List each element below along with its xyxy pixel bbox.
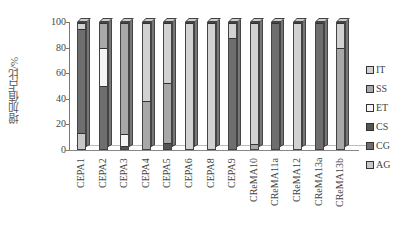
bar-crema12 xyxy=(293,22,302,150)
bar-side xyxy=(324,19,328,147)
bar-segment-ss xyxy=(337,48,344,149)
bar-segment-it xyxy=(143,23,150,101)
bar-cepa2 xyxy=(99,22,108,150)
bar-segment-cg xyxy=(272,23,279,149)
legend-label: SS xyxy=(376,83,387,94)
x-tick-label: CEPA4 xyxy=(140,158,154,218)
x-tick-label: CReMA13b xyxy=(334,158,348,218)
legend-swatch xyxy=(366,66,374,74)
bar-segment-it xyxy=(208,23,215,149)
bar-side xyxy=(129,19,133,147)
x-tick-label: CEPA5 xyxy=(161,158,175,218)
bar-side xyxy=(86,19,90,147)
bar-side xyxy=(259,19,263,147)
bar-segment-it xyxy=(251,23,258,144)
y-tick-mark xyxy=(66,48,70,49)
bar-cepa5 xyxy=(163,22,172,150)
legend: ITSSETCSCGAG xyxy=(366,60,390,174)
bar-side xyxy=(172,19,176,147)
bar-segment-ss xyxy=(100,23,107,48)
bar-cepa4 xyxy=(142,22,151,150)
legend-label: CS xyxy=(376,121,388,132)
bar-cepa1 xyxy=(77,22,86,150)
bar-cepa8 xyxy=(207,22,216,150)
legend-item-cg: CG xyxy=(366,136,390,155)
bar-crema11a xyxy=(271,22,280,150)
legend-item-ag: AG xyxy=(366,155,390,174)
legend-label: ET xyxy=(376,102,388,113)
bar-segment-et xyxy=(100,48,107,86)
legend-swatch xyxy=(366,104,374,112)
bar-cepa9 xyxy=(228,22,237,150)
bar-side xyxy=(216,19,220,147)
legend-swatch xyxy=(366,142,374,150)
y-tick-label: 0 xyxy=(40,145,66,155)
chart-floor xyxy=(69,150,359,151)
x-tick-label: CEPA2 xyxy=(97,158,111,218)
bar-side xyxy=(194,19,198,147)
legend-swatch xyxy=(366,161,374,169)
bar-segment-it xyxy=(186,23,193,149)
y-tick-mark xyxy=(66,73,70,74)
y-axis-label: 增加值占比/% xyxy=(6,40,26,140)
legend-swatch xyxy=(366,123,374,131)
legend-label: AG xyxy=(376,159,390,170)
y-tick-label: 60 xyxy=(40,68,66,78)
bar-segment-cg xyxy=(229,38,236,149)
legend-item-et: ET xyxy=(366,98,390,117)
bar-segment-it xyxy=(229,23,236,38)
bar-side xyxy=(108,19,112,147)
bar-segment-ss xyxy=(164,83,171,142)
y-tick-mark xyxy=(66,124,70,125)
x-tick-label: CEPA9 xyxy=(226,158,240,218)
bar-segment-ss xyxy=(143,101,150,149)
y-tick-label: 40 xyxy=(40,94,66,104)
x-tick-label: CEPA3 xyxy=(118,158,132,218)
x-tick-label: CReMA10 xyxy=(248,158,262,218)
bar-crema10 xyxy=(250,22,259,150)
bar-segment-cs xyxy=(164,143,171,149)
bar-segment-et xyxy=(121,134,128,147)
bar-segment-it xyxy=(164,23,171,83)
bar-side xyxy=(345,19,349,147)
bar-cepa3 xyxy=(120,22,129,150)
x-tick-label: CEPA1 xyxy=(75,158,89,218)
bar-cepa6 xyxy=(185,22,194,150)
legend-item-ss: SS xyxy=(366,79,390,98)
legend-swatch xyxy=(366,85,374,93)
bar-side xyxy=(302,19,306,147)
y-tick-mark xyxy=(66,99,70,100)
y-axis xyxy=(69,22,70,151)
bar-side xyxy=(237,19,241,147)
bar-segment-ss xyxy=(121,23,128,134)
x-tick-label: CReMA12 xyxy=(291,158,305,218)
legend-item-it: IT xyxy=(366,60,390,79)
bar-segment-it xyxy=(337,23,344,48)
x-tick-label: CReMA11a xyxy=(269,158,283,218)
bar-side xyxy=(151,19,155,147)
bar-segment-cg xyxy=(78,29,85,132)
bar-crema13a xyxy=(315,22,324,150)
bar-side xyxy=(280,19,284,147)
y-tick-label: 20 xyxy=(40,119,66,129)
bar-segment-cg xyxy=(100,86,107,149)
x-tick-label: CEPA6 xyxy=(183,158,197,218)
legend-label: CG xyxy=(376,140,390,151)
x-tick-label: CReMA13a xyxy=(313,158,327,218)
bar-segment-cs xyxy=(121,146,128,149)
y-tick-label: 80 xyxy=(40,43,66,53)
legend-label: IT xyxy=(376,64,385,75)
x-tick-label: CEPA8 xyxy=(205,158,219,218)
y-tick-label: 100 xyxy=(40,17,66,27)
bar-segment-ag xyxy=(78,133,85,149)
y-tick-mark xyxy=(66,22,70,23)
legend-item-cs: CS xyxy=(366,117,390,136)
bar-segment-ss xyxy=(251,144,258,149)
bar-crema13b xyxy=(336,22,345,150)
bar-segment-it xyxy=(294,23,301,149)
bar-segment-cg xyxy=(316,23,323,149)
